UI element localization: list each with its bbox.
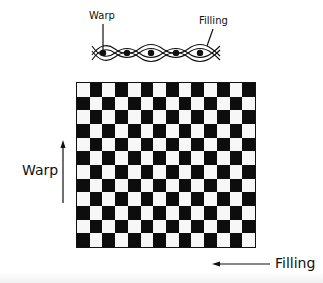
weave-cell: [115, 179, 128, 193]
weave-cell: [102, 179, 115, 193]
weave-cell: [204, 151, 217, 165]
weave-cell: [179, 220, 192, 234]
weave-cell: [166, 83, 179, 97]
weave-cell: [102, 138, 115, 152]
weave-cell: [242, 192, 255, 206]
weave-cell: [179, 97, 192, 111]
warp-dot-icon: [197, 50, 203, 56]
weave-cell: [102, 220, 115, 234]
weave-cell: [166, 151, 179, 165]
weave-cell: [90, 138, 103, 152]
weave-cell: [204, 206, 217, 220]
weave-cell: [90, 206, 103, 220]
weave-cell: [242, 97, 255, 111]
weave-cell: [90, 220, 103, 234]
weave-cell: [102, 124, 115, 138]
weave-cell: [128, 206, 141, 220]
weave-cell: [115, 124, 128, 138]
weave-cell: [141, 192, 154, 206]
weave-cell: [230, 124, 243, 138]
weave-cell: [217, 220, 230, 234]
weave-cell: [77, 138, 90, 152]
weave-cell: [242, 151, 255, 165]
weave-cell: [90, 233, 103, 247]
weave-cell: [191, 220, 204, 234]
weave-cell: [242, 165, 255, 179]
weave-cell: [242, 138, 255, 152]
weave-cell: [141, 138, 154, 152]
filling-direction-label: Filling: [275, 256, 315, 270]
weave-cell: [128, 192, 141, 206]
weave-cell: [153, 179, 166, 193]
weave-cell: [77, 206, 90, 220]
weave-cell: [230, 179, 243, 193]
weave-cell: [242, 220, 255, 234]
weave-cell: [191, 83, 204, 97]
weave-cell: [77, 220, 90, 234]
weave-cell: [242, 124, 255, 138]
weave-cell: [242, 110, 255, 124]
weave-cell: [204, 138, 217, 152]
weave-cell: [166, 97, 179, 111]
weave-cell: [179, 110, 192, 124]
weave-cell: [115, 97, 128, 111]
weave-cell: [230, 151, 243, 165]
weave-cell: [153, 151, 166, 165]
weave-cell: [217, 97, 230, 111]
weave-cell: [217, 233, 230, 247]
weave-cell: [153, 110, 166, 124]
weave-cell: [179, 233, 192, 247]
weave-cell: [191, 165, 204, 179]
weave-cell: [77, 179, 90, 193]
weave-cell: [242, 179, 255, 193]
weave-cell: [191, 124, 204, 138]
weave-cell: [128, 233, 141, 247]
weave-cell: [242, 233, 255, 247]
weave-cell: [77, 83, 90, 97]
weave-cell: [153, 124, 166, 138]
weave-cell: [141, 179, 154, 193]
weave-cell: [141, 83, 154, 97]
weave-cell: [166, 233, 179, 247]
weave-cell: [204, 124, 217, 138]
weave-cell: [179, 165, 192, 179]
weave-cell: [153, 97, 166, 111]
weave-cell: [90, 179, 103, 193]
weave-cell: [141, 165, 154, 179]
weave-cell: [102, 151, 115, 165]
weave-cell: [230, 83, 243, 97]
weave-cell: [179, 151, 192, 165]
weave-cell: [191, 97, 204, 111]
weave-cell: [153, 165, 166, 179]
warp-arrow-icon: [61, 140, 66, 203]
weave-cell: [204, 233, 217, 247]
weave-cell: [102, 165, 115, 179]
weave-cell: [90, 110, 103, 124]
plain-weave-checkerboard: [76, 82, 256, 248]
weave-cell: [217, 165, 230, 179]
weave-cell: [230, 138, 243, 152]
weave-cell: [77, 151, 90, 165]
weave-cell: [204, 192, 217, 206]
weave-cell: [217, 138, 230, 152]
weave-cell: [153, 192, 166, 206]
weave-cell: [217, 206, 230, 220]
warp-dot-icon: [148, 50, 154, 56]
weave-cell: [115, 220, 128, 234]
weave-cell: [204, 83, 217, 97]
weave-cell: [179, 124, 192, 138]
weave-cell: [179, 179, 192, 193]
weave-cell: [90, 192, 103, 206]
filling-arrow-icon: [212, 262, 270, 267]
weave-cell: [128, 179, 141, 193]
weave-cell: [230, 110, 243, 124]
weave-cell: [102, 192, 115, 206]
weave-cell: [166, 206, 179, 220]
weave-cell: [77, 233, 90, 247]
weave-cell: [204, 179, 217, 193]
weave-cell: [230, 97, 243, 111]
filling-leader-line: [207, 29, 213, 46]
warp-dot-icon: [173, 50, 179, 56]
weave-cell: [217, 124, 230, 138]
weave-cell: [204, 165, 217, 179]
